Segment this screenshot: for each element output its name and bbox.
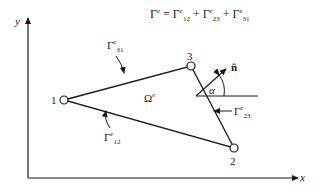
x-axis-label: x [300,172,305,183]
diagram-canvas [0,0,320,192]
arrow-gamma-12 [106,111,111,128]
edge-label-23: Γe23 [234,106,250,117]
edge-label-31: Γe31 [107,40,123,51]
angle-label: α [209,85,215,96]
edge-label-12: Γe12 [104,132,120,143]
node-2-label: 2 [230,156,236,167]
angle-arc [219,75,224,96]
y-axis-label: y [15,16,20,27]
node-3-label: 3 [187,51,193,62]
equation: Γe = Γe12 + Γe23 + Γe31 [150,8,250,20]
node-2 [230,144,238,152]
node-1 [60,96,68,104]
node-3 [187,62,195,70]
triangle-element [64,66,234,148]
element-label: Ωe [144,93,155,104]
node-1-label: 1 [51,95,57,106]
normal-label: n̂ [231,62,237,73]
arrow-gamma-31 [116,56,124,73]
